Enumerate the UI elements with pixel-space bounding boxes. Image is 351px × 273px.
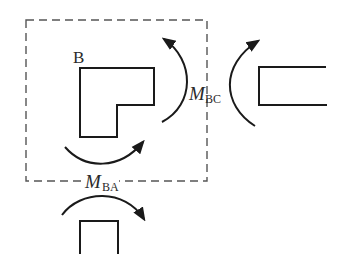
- joint-label: B: [73, 48, 84, 67]
- svg-text:BC: BC: [205, 92, 221, 106]
- member-bc: [259, 67, 327, 105]
- free-body-boundary: [26, 20, 207, 181]
- joint-b-shape: [80, 68, 154, 137]
- member-ba: [80, 221, 118, 254]
- moment-ba-arc-member: [62, 196, 144, 219]
- moment-bc-label: M BC: [188, 83, 221, 106]
- moment-ba-arc-joint: [65, 142, 143, 164]
- svg-text:M: M: [84, 171, 102, 192]
- moment-bc-arc-member: [230, 41, 258, 126]
- svg-text:M: M: [188, 83, 206, 104]
- moment-bc-arc-joint: [162, 39, 187, 122]
- diagram-canvas: B M BC M BA: [0, 0, 351, 273]
- svg-text:BA: BA: [102, 180, 119, 194]
